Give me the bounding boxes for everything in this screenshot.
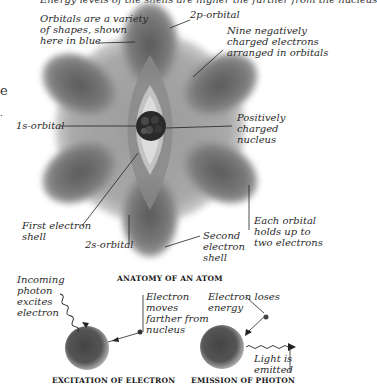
caption-excitation: EXCITATION OF ELECTRON [52, 376, 175, 384]
label-orbitals-variety: Orbitals are a variety of shapes, shown … [40, 13, 148, 46]
label-each-orbital: Each orbital holds up to two electrons [254, 215, 323, 248]
label-2s-orbital: 2s-orbital [85, 239, 133, 250]
label-1s-orbital: 1s-orbital [16, 120, 64, 131]
caption-emission: EMISSION OF PHOTON [191, 376, 295, 384]
label-nine-electrons: Nine negatively charged electrons arrang… [227, 25, 328, 58]
excitation-diagram [58, 293, 143, 370]
label-first-shell: First electron shell [22, 220, 91, 242]
label-incoming-photon: Incoming photon excites electron [17, 274, 65, 318]
label-nucleus: Positively charged nucleus [237, 112, 285, 145]
label-electron-moves: Electron moves farther from nucleus [146, 291, 209, 335]
label-light-emitted: Light is emitted [254, 353, 293, 375]
label-second-shell: Second electron shell [203, 230, 245, 263]
nucleus [136, 111, 166, 141]
label-2p-orbital: 2p-orbital [190, 9, 240, 20]
label-electron-loses: Electron loses energy [208, 291, 280, 313]
caption-anatomy: ANATOMY OF AN ATOM [117, 274, 223, 283]
